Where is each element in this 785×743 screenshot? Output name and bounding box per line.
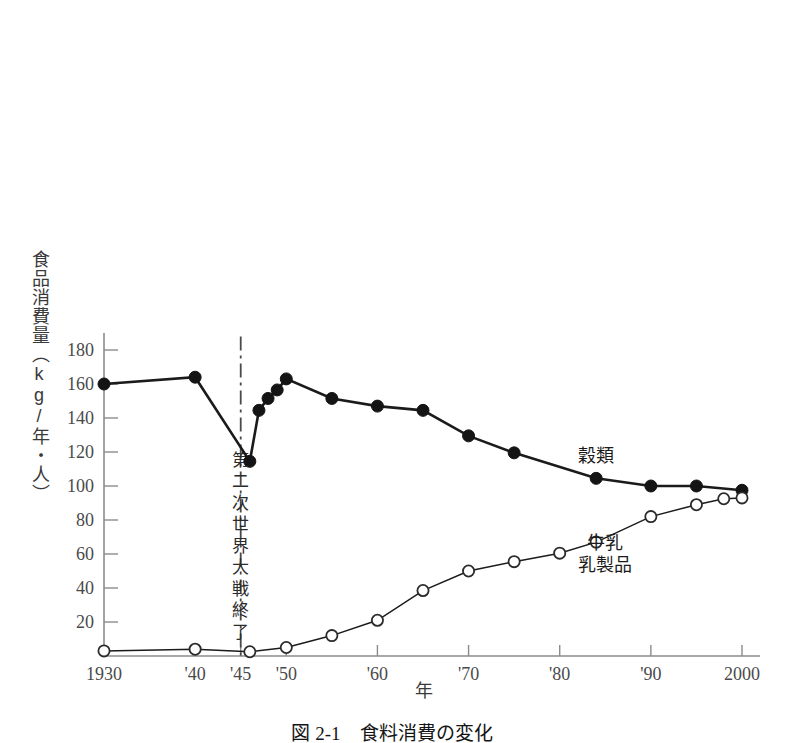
event-label-char: 終 bbox=[232, 601, 249, 620]
data-point-marker bbox=[691, 499, 702, 510]
y-tick-label: 180 bbox=[67, 340, 94, 360]
chart-series bbox=[98, 371, 748, 657]
data-point-marker bbox=[554, 548, 565, 559]
x-tick-label: '40 bbox=[185, 664, 206, 684]
y-tick: 60 bbox=[76, 544, 118, 564]
data-point-marker bbox=[271, 384, 283, 396]
series-label-grain: 穀類 bbox=[578, 446, 614, 466]
y-axis-title-container: 食品消費量（kg/年・人） bbox=[26, 250, 56, 507]
data-point-marker bbox=[371, 400, 383, 412]
y-tick-label: 120 bbox=[67, 442, 94, 462]
data-point-marker bbox=[280, 373, 292, 385]
x-tick-label: '80 bbox=[549, 664, 570, 684]
y-tick: 40 bbox=[76, 578, 118, 598]
series-label-dairy-line2: 乳製品 bbox=[578, 555, 632, 575]
y-tick: 100 bbox=[67, 476, 118, 496]
figure-caption: 図 2-1 食料消費の変化 bbox=[291, 723, 492, 743]
data-point-marker bbox=[645, 511, 656, 522]
event-label-char: 次 bbox=[232, 494, 249, 513]
series-dairy bbox=[98, 492, 747, 657]
event-label-char: 世 bbox=[232, 515, 249, 534]
x-tick: '70 bbox=[458, 645, 479, 684]
data-point-marker bbox=[690, 480, 702, 492]
event-label-char: 戦 bbox=[232, 580, 249, 599]
y-tick-label: 100 bbox=[67, 476, 94, 496]
data-point-marker bbox=[262, 392, 274, 404]
x-axis-ticks: 1930'40'45'50'60'70'80'902000 bbox=[86, 645, 760, 684]
annotation-end-of-wwii: 第二次世界大戦終了 bbox=[232, 336, 249, 656]
event-label-char: 二 bbox=[232, 472, 249, 491]
y-tick-label: 60 bbox=[76, 544, 94, 564]
y-tick-label: 80 bbox=[76, 510, 94, 530]
data-point-marker bbox=[645, 480, 657, 492]
data-point-marker bbox=[244, 646, 255, 657]
food-consumption-line-chart: 20406080100120140160180 1930'40'45'50'60… bbox=[0, 0, 785, 743]
event-label-char: 界 bbox=[232, 537, 249, 556]
y-tick-label: 20 bbox=[76, 612, 94, 632]
y-tick: 120 bbox=[67, 442, 118, 462]
x-tick-label: '60 bbox=[367, 664, 388, 684]
y-tick: 140 bbox=[67, 408, 118, 428]
data-point-marker bbox=[326, 392, 338, 404]
series-labels: 穀類牛乳乳製品 bbox=[578, 446, 632, 575]
chart-axes bbox=[104, 333, 760, 656]
x-tick-label: '90 bbox=[640, 664, 661, 684]
data-point-marker bbox=[736, 492, 747, 503]
series-grain bbox=[98, 371, 748, 496]
data-point-marker bbox=[718, 493, 729, 504]
x-tick: '60 bbox=[367, 645, 388, 684]
data-point-marker bbox=[417, 585, 428, 596]
x-tick-label: '70 bbox=[458, 664, 479, 684]
data-point-marker bbox=[417, 404, 429, 416]
y-tick: 180 bbox=[67, 340, 118, 360]
data-point-marker bbox=[463, 430, 475, 442]
data-point-marker bbox=[509, 556, 520, 567]
x-tick-label: 2000 bbox=[724, 664, 760, 684]
event-label-char: 大 bbox=[232, 558, 249, 577]
y-tick-label: 160 bbox=[67, 374, 94, 394]
chart-figure: 20406080100120140160180 1930'40'45'50'60… bbox=[0, 0, 785, 743]
data-point-marker bbox=[508, 447, 520, 459]
x-tick: '80 bbox=[549, 645, 570, 684]
x-tick-label: '50 bbox=[276, 664, 297, 684]
x-tick: 2000 bbox=[724, 645, 760, 684]
x-tick: '90 bbox=[640, 645, 661, 684]
data-point-marker bbox=[98, 378, 110, 390]
x-tick-label: '45 bbox=[230, 664, 251, 684]
y-axis-title: 食品消費量（kg/年・人） bbox=[26, 250, 52, 503]
data-point-marker bbox=[189, 371, 201, 383]
event-label-char: 了 bbox=[232, 623, 249, 642]
data-point-marker bbox=[244, 455, 256, 467]
data-point-marker bbox=[590, 472, 602, 484]
series-polyline bbox=[104, 377, 742, 490]
data-point-marker bbox=[372, 615, 383, 626]
data-point-marker bbox=[463, 565, 474, 576]
y-tick: 80 bbox=[76, 510, 118, 530]
x-axis-title: 年 bbox=[415, 681, 433, 701]
data-point-marker bbox=[98, 645, 109, 656]
y-tick: 20 bbox=[76, 612, 118, 632]
x-tick-label: 1930 bbox=[86, 664, 122, 684]
series-label-dairy: 牛乳 bbox=[587, 533, 623, 553]
y-tick-label: 40 bbox=[76, 578, 94, 598]
data-point-marker bbox=[253, 404, 265, 416]
data-point-marker bbox=[326, 630, 337, 641]
chart-annotations: 第二次世界大戦終了 bbox=[232, 336, 249, 656]
y-tick-label: 140 bbox=[67, 408, 94, 428]
data-point-marker bbox=[281, 642, 292, 653]
data-point-marker bbox=[190, 644, 201, 655]
